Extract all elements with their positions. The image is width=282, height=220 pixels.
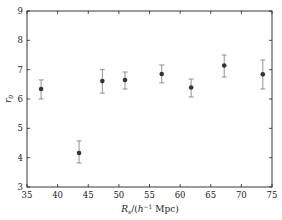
x-tick-label: 35 (22, 190, 33, 200)
data-point (189, 79, 194, 97)
point-marker (222, 63, 227, 68)
y-tick-label: 9 (18, 6, 23, 16)
data-point (222, 55, 227, 77)
y-tick-label: 5 (18, 123, 23, 133)
x-tick-label: 40 (52, 190, 63, 200)
x-tick-label: 65 (205, 190, 216, 200)
data-point (77, 141, 82, 163)
x-tick-label: 55 (144, 190, 155, 200)
x-tick-label: 70 (236, 190, 247, 200)
plot-border (27, 11, 272, 187)
point-marker (123, 78, 128, 83)
scatter-chart: 354045505560657075 3456789 Rs/(h−1 Mpc) … (0, 0, 282, 220)
y-axis-label: r0 (3, 95, 14, 103)
point-marker (189, 85, 194, 90)
point-marker (77, 151, 82, 156)
point-marker (159, 72, 164, 77)
data-point (159, 65, 164, 83)
data-point (260, 60, 265, 89)
point-marker (261, 72, 266, 77)
y-tick-label: 3 (18, 182, 23, 192)
data-point (123, 72, 128, 89)
plot-frame (27, 11, 272, 187)
x-tick-label: 50 (113, 190, 124, 200)
x-axis-label: Rs/(h−1 Mpc) (120, 203, 178, 215)
data-point (100, 70, 105, 93)
y-tick-label: 6 (18, 94, 23, 104)
data-point (39, 80, 44, 99)
y-tick-label: 8 (18, 35, 23, 45)
point-marker (100, 79, 105, 84)
x-axis: 354045505560657075 (22, 11, 278, 200)
y-tick-label: 4 (18, 153, 23, 163)
x-tick-label: 45 (83, 190, 94, 200)
data-points (39, 55, 266, 163)
y-tick-label: 7 (18, 65, 23, 75)
y-axis: 3456789 (18, 6, 272, 192)
point-marker (39, 87, 44, 92)
x-tick-label: 75 (267, 190, 278, 200)
x-tick-label: 60 (175, 190, 186, 200)
